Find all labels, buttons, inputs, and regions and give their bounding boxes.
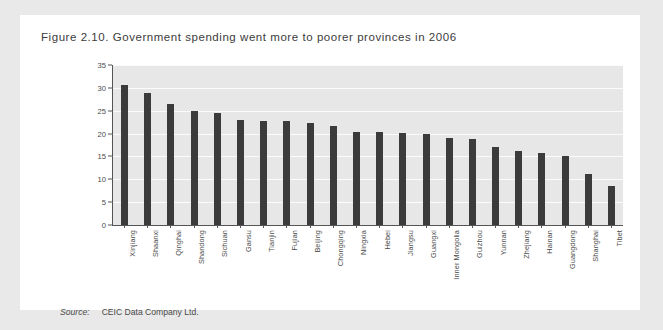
x-axis-tick-slot (136, 225, 159, 229)
bar (376, 132, 383, 225)
x-axis-label-slot: Shaanxi (136, 230, 159, 300)
bar (515, 151, 522, 226)
x-axis-tick-mark (286, 225, 287, 228)
x-axis-tick-slot (484, 225, 507, 229)
bar-slot (414, 65, 437, 225)
bar (307, 123, 314, 225)
x-axis-tick-mark (426, 225, 427, 228)
x-axis-tick-mark (449, 225, 450, 228)
bar (144, 93, 151, 225)
bar (330, 126, 337, 225)
x-axis-label-slot: Inner Mongolia (438, 230, 461, 300)
x-axis-tick-mark (170, 225, 171, 228)
x-axis-tick-mark (379, 225, 380, 228)
bar-slot (229, 65, 252, 225)
x-axis-tick-slot (252, 225, 275, 229)
x-axis-tick-slot (206, 225, 229, 229)
bar (237, 120, 244, 225)
x-axis-tick-slot (113, 225, 136, 229)
bar (585, 174, 592, 225)
bar (121, 85, 128, 225)
x-axis-label-slot: Guangxi (414, 230, 437, 300)
source-text: CEIC Data Company Ltd. (102, 307, 199, 317)
bar-slot (252, 65, 275, 225)
x-axis-label-slot: Yunnan (484, 230, 507, 300)
bar-slot (322, 65, 345, 225)
x-axis-label-slot: Guangdong (554, 230, 577, 300)
x-axis-tick-slot (229, 225, 252, 229)
y-axis-tick-label: 0 (102, 221, 106, 230)
x-axis-label-slot: Xinjiang (113, 230, 136, 300)
bar-slot (345, 65, 368, 225)
bar-slot (206, 65, 229, 225)
x-axis-tick-mark (541, 225, 542, 228)
bar-slot (299, 65, 322, 225)
bar-slot (530, 65, 553, 225)
figure-page: Figure 2.10. Government spending went mo… (0, 0, 663, 330)
x-axis-label-slot: Qinghai (159, 230, 182, 300)
bar-slot (391, 65, 414, 225)
bar-slot (113, 65, 136, 225)
x-axis-label-slot: Beijing (299, 230, 322, 300)
x-axis-tick-slot (530, 225, 553, 229)
y-axis-tick-label: 25 (98, 106, 106, 115)
bar-slot (438, 65, 461, 225)
x-axis-tick-slot (414, 225, 437, 229)
x-axis-label-slot: Shandong (183, 230, 206, 300)
x-axis-tick-slot (438, 225, 461, 229)
x-axis-label-slot: Gansu (229, 230, 252, 300)
x-axis-tick-mark (240, 225, 241, 228)
bar-slot (136, 65, 159, 225)
bar-slot (507, 65, 530, 225)
x-axis-tick-slot (159, 225, 182, 229)
x-axis-tick-mark (333, 225, 334, 228)
x-axis-tick-slot (183, 225, 206, 229)
x-axis-label-slot: Fujian (275, 230, 298, 300)
x-axis-tick-mark (217, 225, 218, 228)
figure-card: Figure 2.10. Government spending went mo… (20, 15, 640, 310)
bar (538, 153, 545, 225)
x-axis-label-slot: Hainan (530, 230, 553, 300)
bar (608, 186, 615, 225)
x-axis-label-slot: Hebei (368, 230, 391, 300)
page-title: Figure 2.10. Government spending went mo… (41, 31, 457, 43)
bar (191, 111, 198, 225)
y-axis-tick-label: 5 (102, 198, 106, 207)
x-axis-tick-mark (310, 225, 311, 228)
x-axis-tick-slot (368, 225, 391, 229)
x-axis-label-slot: Ningxia (345, 230, 368, 300)
x-axis-label-slot: Chongqing (322, 230, 345, 300)
x-axis-tick-slot (577, 225, 600, 229)
bar-slot (461, 65, 484, 225)
bar (167, 104, 174, 225)
x-axis-tick-mark (518, 225, 519, 228)
x-axis-tick-slot (299, 225, 322, 229)
x-axis-tick-slot (391, 225, 414, 229)
x-axis-label-slot: Shanghai (577, 230, 600, 300)
bar-slot (554, 65, 577, 225)
bar-slot (600, 65, 623, 225)
bar-slot (275, 65, 298, 225)
bar-slot (577, 65, 600, 225)
bar-series (113, 65, 623, 225)
x-axis-tick-slot (507, 225, 530, 229)
x-axis-labels: XinjiangShaanxiQinghaiShandongSichuanGan… (113, 230, 623, 300)
x-axis-label-slot: Tianjin (252, 230, 275, 300)
x-axis-tick-slot (600, 225, 623, 229)
x-axis-label-slot: Guizhou (461, 230, 484, 300)
x-axis-tick-label: Tibet (615, 230, 624, 246)
y-axis-tick-label: 20 (98, 129, 106, 138)
x-axis-tick-mark (565, 225, 566, 228)
x-axis-label-slot: Jiangsu (391, 230, 414, 300)
bar (214, 113, 221, 225)
bar (353, 132, 360, 225)
x-axis-ticks (113, 225, 623, 229)
bar-slot (183, 65, 206, 225)
bar (399, 133, 406, 225)
bar (423, 134, 430, 225)
x-axis-tick-mark (402, 225, 403, 228)
x-axis-label-slot: Tibet (600, 230, 623, 300)
y-axis-tick-label: 35 (98, 61, 106, 70)
source-note: Source:CEIC Data Company Ltd. (60, 307, 199, 317)
x-axis-tick-mark (263, 225, 264, 228)
